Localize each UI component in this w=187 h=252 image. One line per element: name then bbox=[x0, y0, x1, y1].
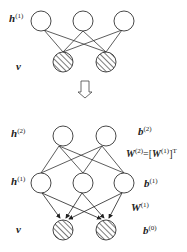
h1-units bbox=[31, 173, 134, 193]
h1-label: h(1) bbox=[11, 176, 25, 187]
network-diagram bbox=[0, 0, 187, 252]
b0-label: b(0) bbox=[143, 225, 157, 236]
directed-edges bbox=[42, 193, 122, 219]
top-h1-label: h(1) bbox=[9, 13, 23, 24]
w2-tied-weights-label: W(2)=[W(1)]T bbox=[126, 148, 177, 159]
v-label: v bbox=[16, 224, 21, 235]
b2-label: b(2) bbox=[138, 126, 152, 137]
h2-units bbox=[53, 126, 116, 146]
upper-edges bbox=[41, 146, 124, 173]
top-hidden-units bbox=[31, 11, 134, 31]
w1-label: W(1) bbox=[131, 202, 149, 213]
v-units bbox=[53, 220, 116, 240]
down-arrow-icon bbox=[78, 81, 92, 98]
top-edges bbox=[44, 30, 122, 52]
b1-label: b(1) bbox=[144, 178, 158, 189]
top-v-label: v bbox=[16, 61, 21, 72]
top-visible-units bbox=[53, 52, 116, 72]
h2-label: h(2) bbox=[11, 128, 25, 139]
